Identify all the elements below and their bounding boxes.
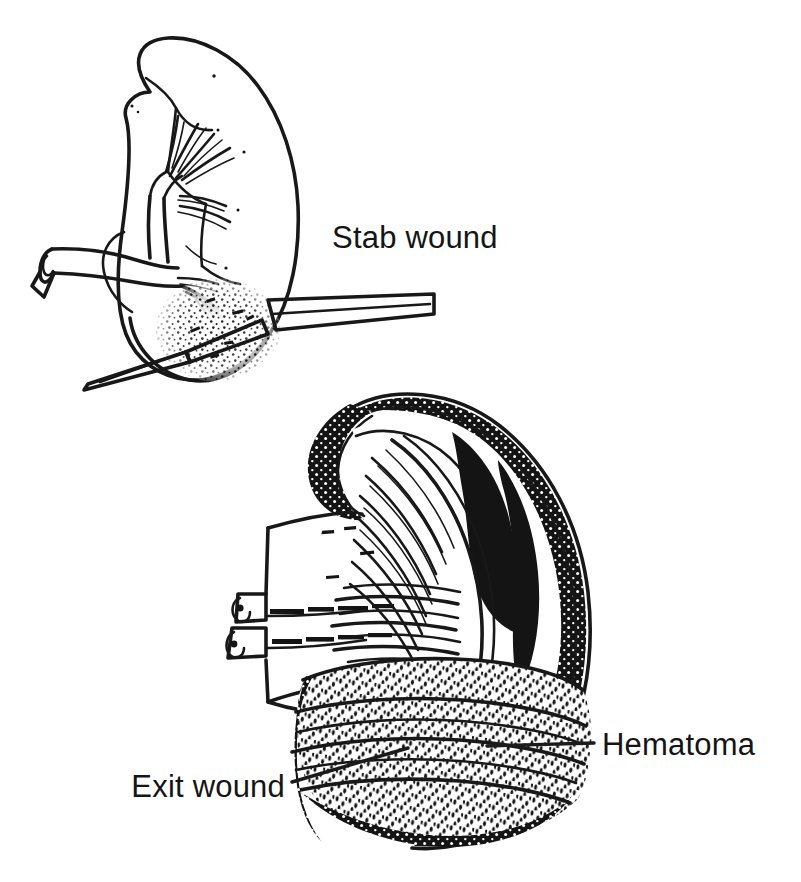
label-hematoma: Hematoma (602, 727, 756, 762)
label-stab-wound: Stab wound (332, 220, 498, 255)
kidney-trauma-figure: Stab wound (0, 0, 801, 882)
illustration-canvas: Stab wound (0, 0, 801, 882)
label-exit-wound: Exit wound (131, 769, 285, 804)
